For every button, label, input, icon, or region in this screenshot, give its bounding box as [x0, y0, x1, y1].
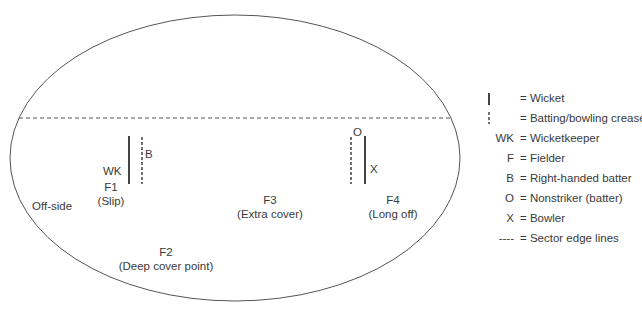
wicketkeeper-label: WK: [103, 164, 122, 178]
batter-label: B: [145, 147, 153, 161]
fielder-f4-id: F4: [365, 193, 421, 207]
offside-label: Off-side: [32, 199, 72, 213]
fielder-f3-name: (Extra cover): [232, 207, 308, 221]
fielder-f3: F3 (Extra cover): [232, 193, 308, 221]
fielder-f1: F1 (Slip): [95, 180, 127, 208]
fielder-f1-name: (Slip): [95, 194, 127, 208]
field-boundary: [10, 15, 460, 301]
fielder-f4-name: (Long off): [365, 207, 421, 221]
fielder-f2-id: F2: [110, 245, 222, 259]
fielder-f1-id: F1: [95, 180, 127, 194]
fielder-f3-id: F3: [232, 193, 308, 207]
fielder-f2: F2 (Deep cover point): [110, 245, 222, 273]
fielder-f4: F4 (Long off): [365, 193, 421, 221]
bowler-label: X: [370, 162, 378, 176]
nonstriker-label: O: [353, 125, 362, 139]
fielder-f2-name: (Deep cover point): [110, 259, 222, 273]
